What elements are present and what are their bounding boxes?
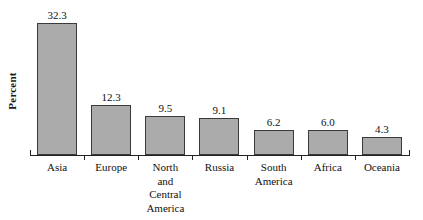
bar-slot: 6.2 xyxy=(247,6,301,155)
category-label-line: North xyxy=(138,161,192,175)
category-label: Africa xyxy=(301,161,355,175)
x-axis-tick xyxy=(192,155,193,160)
x-axis-tick xyxy=(84,155,85,160)
bar-value-label: 6.2 xyxy=(267,116,281,128)
bar-slot: 6.0 xyxy=(301,6,355,155)
bar-value-label: 9.5 xyxy=(158,102,172,114)
category-label-line: Europe xyxy=(84,161,138,175)
bar-value-label: 4.3 xyxy=(375,123,389,135)
bar-group[interactable]: 9.1 xyxy=(199,104,239,155)
x-axis-start-cap xyxy=(30,150,31,156)
category-label-line: Central xyxy=(138,188,192,202)
x-axis-end-cap xyxy=(409,150,410,156)
x-axis-tick xyxy=(355,155,356,160)
category-label: Russia xyxy=(192,161,246,175)
bar-chart: Percent 32.312.39.59.16.26.04.3 AsiaEuro… xyxy=(0,0,423,220)
bar-slot: 12.3 xyxy=(84,6,138,155)
bar-rect[interactable] xyxy=(145,116,185,155)
category-label-line: and xyxy=(138,175,192,189)
x-axis-tick xyxy=(247,155,248,160)
bar-slot: 4.3 xyxy=(355,6,409,155)
bar-group[interactable]: 12.3 xyxy=(91,91,131,155)
x-axis-category-labels: AsiaEuropeNorthandCentralAmericaRussiaSo… xyxy=(30,161,409,219)
bar-rect[interactable] xyxy=(362,137,402,155)
x-axis-tick xyxy=(301,155,302,160)
x-axis-line xyxy=(30,155,409,156)
bar-rect[interactable] xyxy=(37,23,77,155)
bar-group[interactable]: 6.0 xyxy=(308,116,348,155)
bar-slot: 9.1 xyxy=(192,6,246,155)
category-label-line: Oceania xyxy=(355,161,409,175)
bar-value-label: 9.1 xyxy=(213,104,227,116)
category-label: SouthAmerica xyxy=(247,161,301,188)
bar-value-label: 6.0 xyxy=(321,116,335,128)
category-label: Asia xyxy=(30,161,84,175)
bar-value-label: 12.3 xyxy=(102,91,121,103)
category-label: NorthandCentralAmerica xyxy=(138,161,192,215)
bar-group[interactable]: 4.3 xyxy=(362,123,402,155)
plot-area: 32.312.39.59.16.26.04.3 xyxy=(30,6,409,155)
category-label: Oceania xyxy=(355,161,409,175)
category-label-line: South xyxy=(247,161,301,175)
category-label-line: America xyxy=(247,175,301,189)
category-label: Europe xyxy=(84,161,138,175)
bar-slot: 9.5 xyxy=(138,6,192,155)
bar-group[interactable]: 6.2 xyxy=(254,116,294,155)
category-label-line: Africa xyxy=(301,161,355,175)
bar-rect[interactable] xyxy=(254,130,294,155)
bar-rect[interactable] xyxy=(308,130,348,155)
bar-rect[interactable] xyxy=(91,105,131,155)
bar-rect[interactable] xyxy=(199,118,239,155)
bar-group[interactable]: 32.3 xyxy=(37,9,77,155)
category-label-line: America xyxy=(138,202,192,216)
category-label-line: Asia xyxy=(30,161,84,175)
y-axis-title: Percent xyxy=(5,56,19,126)
bar-value-label: 32.3 xyxy=(47,9,66,21)
x-axis-tick xyxy=(138,155,139,160)
bar-slot: 32.3 xyxy=(30,6,84,155)
category-label-line: Russia xyxy=(192,161,246,175)
bar-group[interactable]: 9.5 xyxy=(145,102,185,155)
